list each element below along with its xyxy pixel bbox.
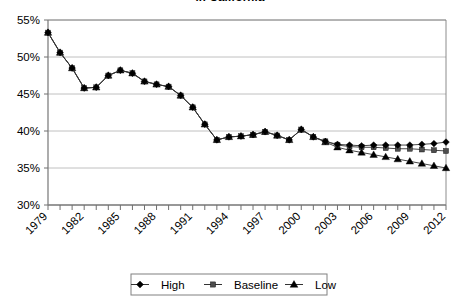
data-point-square (210, 282, 215, 287)
y-axis-tick-labels: 30%35%40%45%50%55% (17, 14, 40, 211)
y-tick-label: 50% (17, 51, 40, 63)
series-line (48, 33, 446, 151)
x-tick-label: 2006 (348, 210, 375, 237)
series-low (44, 29, 450, 171)
x-axis-tick-labels: 1979198219851988199119941997200020032006… (23, 210, 448, 237)
plot-frame (48, 20, 446, 205)
y-tick-label: 55% (17, 14, 40, 26)
x-axis-ticks (48, 205, 446, 210)
x-tick-label: 1985 (95, 210, 122, 237)
x-tick-label: 1994 (204, 210, 231, 237)
series-baseline (46, 30, 449, 153)
x-tick-label: 2012 (421, 210, 448, 237)
x-tick-label: 1991 (168, 210, 195, 237)
y-tick-label: 35% (17, 162, 40, 174)
data-point-diamond (419, 141, 426, 148)
x-tick-label: 2009 (385, 210, 412, 237)
legend-label: High (161, 279, 185, 291)
series-line (48, 33, 446, 146)
chart-plot: 30%35%40%45%50%55% 197919821985198819911… (0, 0, 460, 306)
y-tick-label: 45% (17, 88, 40, 100)
x-tick-label: 1997 (240, 210, 267, 237)
x-tick-label: 1982 (59, 210, 86, 237)
chart-container: in California 30%35%40%45%50%55% 1979198… (0, 0, 460, 306)
gridlines (48, 20, 446, 205)
x-tick-label: 2000 (276, 210, 303, 237)
data-point-diamond (443, 139, 450, 146)
legend-label: Low (315, 279, 337, 291)
data-point-diamond (431, 140, 438, 147)
data-series-layer (44, 29, 450, 171)
y-tick-label: 30% (17, 199, 40, 211)
x-tick-label: 1979 (23, 210, 50, 237)
chart-legend: HighBaselineLow (131, 274, 337, 295)
legend-label: Baseline (234, 279, 278, 291)
x-tick-label: 2003 (312, 210, 339, 237)
data-point-square (431, 148, 436, 153)
data-point-square (444, 148, 449, 153)
y-tick-label: 40% (17, 125, 40, 137)
x-tick-label: 1988 (131, 210, 158, 237)
